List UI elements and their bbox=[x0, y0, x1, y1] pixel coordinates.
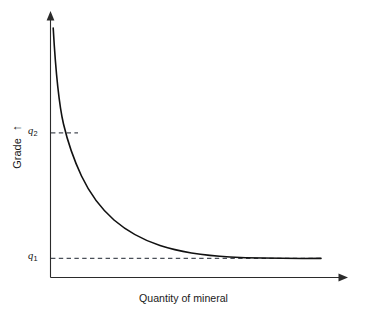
y-axis-label-text: Grade bbox=[11, 138, 23, 169]
x-axis-label-text: Quantity of mineral bbox=[0, 292, 367, 304]
grade-quantity-curve bbox=[53, 28, 321, 258]
q1-subscript: 1 bbox=[34, 254, 38, 263]
up-arrow-icon: ↑ bbox=[11, 125, 23, 131]
y-tick-label-q1: q1 bbox=[28, 250, 37, 261]
y-axis-label-group: Grade ↑ bbox=[2, 104, 32, 192]
q2-subscript: 2 bbox=[34, 129, 38, 138]
chart-plot-area bbox=[0, 0, 367, 314]
y-axis-label-rotated: Grade ↑ bbox=[11, 117, 23, 177]
x-axis-arrow-icon bbox=[339, 274, 349, 282]
y-axis bbox=[47, 11, 55, 278]
x-axis bbox=[51, 274, 349, 282]
q1-symbol: q bbox=[28, 250, 33, 261]
chart-figure: q2 q1 Grade ↑ Quantity of mineral bbox=[0, 0, 367, 314]
y-axis-arrow-icon bbox=[47, 11, 55, 21]
